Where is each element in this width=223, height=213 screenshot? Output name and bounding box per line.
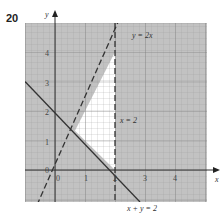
y-tick-1: 1 <box>45 138 49 147</box>
label-y-equals-2x: y = 2x <box>131 31 153 40</box>
label-x-equals-2: x = 2 <box>119 116 137 125</box>
x-tick-2: 2 <box>113 174 117 183</box>
x-tick-0: 0 <box>56 174 60 183</box>
x-axis-label: x <box>214 175 219 184</box>
y-axis-arrow-icon <box>52 10 58 17</box>
x-tick-3: 3 <box>143 174 147 183</box>
label-x-plus-y-equals-2: x + y = 2 <box>126 204 157 213</box>
x-tick-1: 1 <box>84 174 88 183</box>
x-axis-arrow-icon <box>213 167 220 173</box>
inequality-graph: y x 4 3 2 1 0 0 1 2 3 4 y = 2x x = 2 x +… <box>0 0 223 213</box>
y-tick-4: 4 <box>45 49 49 58</box>
y-tick-3: 3 <box>45 79 49 88</box>
y-tick-2: 2 <box>45 108 49 117</box>
y-tick-0: 0 <box>45 166 49 175</box>
x-tick-4: 4 <box>173 174 177 183</box>
y-axis-label: y <box>44 10 49 19</box>
